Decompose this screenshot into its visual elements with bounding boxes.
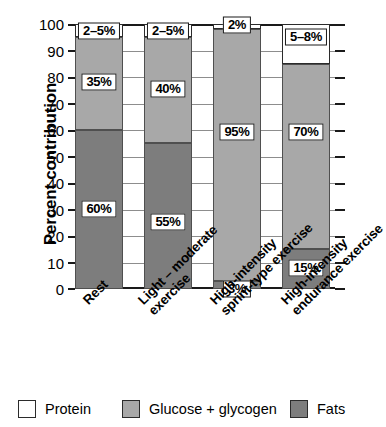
- ytick-mark-30: [68, 209, 75, 211]
- ytick-label-40: 40: [24, 175, 64, 192]
- ytick-mark-right-50: [335, 156, 345, 158]
- legend-item-fats[interactable]: Fats: [290, 398, 345, 420]
- legend-label-glucose-glycogen: Glucose + glycogen: [149, 401, 277, 417]
- ytick-label-70: 70: [24, 95, 64, 112]
- legend-swatch-glucose-glycogen-icon: [122, 400, 140, 418]
- bar-rest-fats-label: 60%: [81, 201, 116, 218]
- ytick-mark-right-80: [335, 77, 345, 79]
- legend-swatch-fats-icon: [290, 400, 308, 418]
- ytick-mark-right-100: [335, 24, 345, 26]
- ytick-mark-right-30: [335, 209, 345, 211]
- ytick-mark-60: [68, 130, 75, 132]
- bar-rest-protein-label: 2–5%: [78, 23, 120, 40]
- ytick-label-30: 30: [24, 201, 64, 218]
- ytick-label-80: 80: [24, 69, 64, 86]
- legend-item-glucose-glycogen[interactable]: Glucose + glycogen: [122, 398, 277, 420]
- bar-light-moderate-exercise-fats-label: 55%: [150, 214, 185, 231]
- bar-light-moderate-exercise-protein-label: 2–5%: [147, 23, 189, 40]
- ytick-mark-0: [68, 288, 75, 290]
- legend-label-fats: Fats: [317, 401, 345, 417]
- bar-high-intensity-sprint-protein-label: 2%: [223, 17, 251, 34]
- ytick-mark-50: [68, 156, 75, 158]
- bar-high-intensity-endurance-protein-label: 5–8%: [285, 29, 327, 46]
- ytick-label-20: 20: [24, 228, 64, 245]
- legend-label-protein: Protein: [45, 401, 91, 417]
- ytick-mark-right-60: [335, 130, 345, 132]
- ytick-label-100: 100: [24, 16, 64, 33]
- ytick-mark-80: [68, 77, 75, 79]
- ytick-mark-right-0: [335, 288, 345, 290]
- ytick-label-10: 10: [24, 254, 64, 271]
- ytick-mark-right-90: [335, 50, 345, 52]
- ytick-label-0: 0: [24, 281, 64, 298]
- bar-light-moderate-exercise-carbs-label: 40%: [150, 81, 185, 98]
- bar-high-intensity-endurance-carbs-label: 70%: [288, 124, 323, 141]
- ytick-label-60: 60: [24, 122, 64, 139]
- ytick-label-50: 50: [24, 148, 64, 165]
- legend-item-protein[interactable]: Protein: [18, 398, 91, 420]
- ytick-mark-90: [68, 50, 75, 52]
- ytick-mark-70: [68, 103, 75, 105]
- ytick-mark-right-40: [335, 183, 345, 185]
- ytick-mark-20: [68, 236, 75, 238]
- bar-high-intensity-sprint-carbs-label: 95%: [219, 124, 254, 141]
- bar-rest-carbs-label: 35%: [81, 74, 116, 91]
- ytick-label-90: 90: [24, 42, 64, 59]
- ytick-mark-100: [68, 24, 75, 26]
- legend-swatch-protein-icon: [18, 400, 36, 418]
- ytick-mark-10: [68, 262, 75, 264]
- chart-legend: Protein Glucose + glycogen Fats: [18, 398, 348, 422]
- ytick-mark-right-70: [335, 103, 345, 105]
- ytick-mark-40: [68, 183, 75, 185]
